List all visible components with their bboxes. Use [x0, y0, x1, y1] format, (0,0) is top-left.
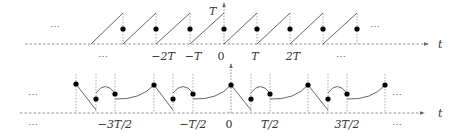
svg-text:T: T — [251, 50, 260, 63]
svg-text:−T/2: −T/2 — [179, 118, 206, 131]
bottom-ellipsis-right-below: ⋯ — [392, 119, 403, 130]
top-axis-label: t — [438, 38, 443, 51]
svg-text:T/2: T/2 — [261, 118, 279, 131]
svg-text:3T/2: 3T/2 — [334, 118, 359, 131]
top-ellipsis-left-above: ⋯ — [50, 21, 61, 32]
top-y-label: T — [209, 5, 218, 18]
svg-text:0: 0 — [226, 118, 233, 131]
top-plot: t T — [25, 3, 443, 63]
sawtooth-sampling-diagram: t T — [0, 0, 469, 138]
svg-text:−T: −T — [185, 50, 203, 63]
bottom-axis-label: t — [438, 107, 443, 120]
bottom-ellipsis-left-above: ⋯ — [28, 89, 39, 100]
bottom-tick-labels: −3T/2 −T/2 0 T/2 3T/2 — [98, 118, 360, 131]
bottom-sample-dots — [73, 81, 387, 101]
bottom-guides — [76, 74, 385, 113]
top-ellipsis-right-above: ⋯ — [370, 21, 381, 32]
bottom-ellipsis-right-above: ⋯ — [392, 89, 403, 100]
top-ellipsis-left-below: ⋯ — [98, 51, 109, 62]
bottom-plot: t — [20, 64, 443, 131]
bottom-ellipsis-left-below: ⋯ — [28, 119, 39, 130]
top-tick-labels: −2T −T 0 T 2T — [151, 50, 302, 63]
svg-text:2T: 2T — [285, 50, 302, 63]
top-ellipsis-right-below: ⋯ — [336, 51, 347, 62]
svg-text:0: 0 — [218, 50, 225, 63]
bottom-waveform — [76, 84, 385, 110]
svg-text:−3T/2: −3T/2 — [98, 118, 132, 131]
svg-text:−2T: −2T — [151, 50, 176, 63]
